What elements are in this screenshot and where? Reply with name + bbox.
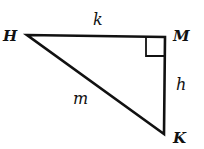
- side-label-m: m: [73, 89, 88, 108]
- right-angle-marker: [146, 37, 164, 56]
- triangle-hmk: [27, 35, 165, 134]
- vertex-label-k: K: [172, 129, 187, 147]
- triangle-diagram: H M K k h m: [0, 0, 204, 149]
- vertex-label-m: M: [172, 27, 190, 45]
- side-label-k: k: [93, 10, 103, 29]
- vertex-label-h: H: [2, 27, 18, 45]
- side-label-h: h: [176, 75, 186, 94]
